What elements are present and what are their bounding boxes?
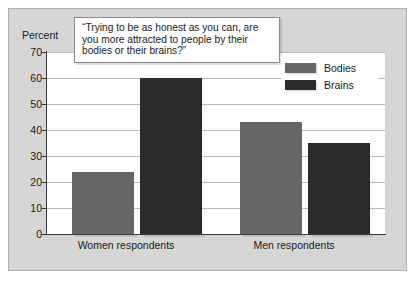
- question-callout: “Trying to be as honest as you can, are …: [74, 17, 280, 63]
- ytick-label-40: 40: [18, 125, 42, 135]
- ytick-label-30: 30: [18, 151, 42, 161]
- ytick-label-20: 20: [18, 177, 42, 187]
- legend-swatch-bodies-icon: [285, 63, 316, 73]
- ytick-label-0: 0: [18, 229, 42, 239]
- ytick-mark-20: [42, 182, 47, 183]
- ytick-mark-40: [42, 130, 47, 131]
- legend-label-brains: Brains: [324, 79, 354, 91]
- legend-item-bodies[interactable]: Bodies: [285, 59, 378, 76]
- legend-item-brains[interactable]: Brains: [285, 76, 378, 93]
- gridline-40: [47, 130, 385, 131]
- ytick-label-70: 70: [18, 47, 42, 57]
- ytick-label-50: 50: [18, 99, 42, 109]
- group-label-women: Women respondents: [47, 239, 205, 251]
- y-axis-tick-labels: 70 60 50 40 30 20 10 0: [12, 0, 42, 281]
- bar-men-brains[interactable]: [308, 143, 370, 234]
- legend-swatch-brains-icon: [285, 80, 316, 90]
- gridline-50: [47, 104, 385, 105]
- ytick-mark-60: [42, 78, 47, 79]
- ytick-mark-0: [42, 234, 47, 235]
- ytick-label-60: 60: [18, 73, 42, 83]
- chart-figure: Percent 70 60 50 40 30 20 10: [0, 0, 417, 281]
- bar-women-brains[interactable]: [140, 78, 202, 234]
- ytick-mark-30: [42, 156, 47, 157]
- bar-women-bodies[interactable]: [72, 172, 134, 234]
- chart-legend: Bodies Brains: [281, 55, 378, 97]
- bar-men-bodies[interactable]: [240, 122, 302, 234]
- ytick-mark-10: [42, 208, 47, 209]
- ytick-mark-70: [42, 52, 47, 53]
- group-label-men: Men respondents: [215, 239, 373, 251]
- legend-label-bodies: Bodies: [324, 62, 356, 74]
- x-axis-line: [46, 234, 386, 235]
- ytick-label-10: 10: [18, 203, 42, 213]
- ytick-mark-50: [42, 104, 47, 105]
